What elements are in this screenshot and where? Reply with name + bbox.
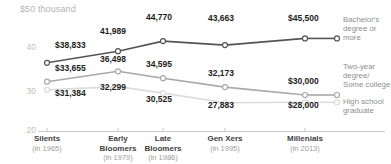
data-point-marker[interactable] — [45, 60, 50, 65]
legend-end-marker — [335, 100, 340, 105]
legend-item-highschool: High school graduate — [343, 97, 384, 115]
x-axis-label-silents-name: Silents — [34, 134, 60, 143]
data-point-marker[interactable] — [116, 69, 121, 74]
data-label-twoyear-millenials: $30,000 — [288, 76, 319, 86]
data-label-twoyear-early: 36,498 — [100, 54, 126, 64]
data-label-highschool-silents: $31,384 — [55, 88, 86, 98]
data-point-marker[interactable] — [116, 49, 121, 54]
data-point-marker[interactable] — [303, 93, 308, 98]
x-axis-label-millenials: Millenials (in 2013) — [273, 134, 337, 153]
legend-label-highschool-line2: graduate — [343, 106, 374, 115]
x-axis-label-gen-xers: Gen Xers (in 1995) — [195, 134, 255, 153]
legend-label-highschool-line1: High school — [343, 97, 384, 106]
x-axis-label-late-bloomers-name2: Bloomers — [135, 144, 191, 154]
data-label-highschool-millenials: $28,000 — [288, 100, 319, 110]
legend-label-bachelors-line3: more — [343, 33, 361, 42]
legend-label-bachelors-line1: Bachelor's — [343, 15, 379, 24]
legend-end-marker — [335, 36, 340, 41]
data-label-bachelors-silents: $38,833 — [55, 40, 86, 50]
chart-container: $50 thousand 40 30 20 $38,833 41,989 44,… — [0, 0, 391, 164]
x-axis-label-early-bloomers-name: Early — [108, 134, 128, 143]
data-label-bachelors-millenials: $45,500 — [288, 13, 319, 23]
data-point-marker[interactable] — [223, 85, 228, 90]
data-point-marker[interactable] — [161, 39, 166, 44]
data-point-marker[interactable] — [45, 87, 50, 92]
legend-end-marker — [335, 93, 340, 98]
legend-label-twoyear-line3: Some college — [343, 80, 390, 89]
data-label-highschool-late: 30,525 — [146, 94, 172, 104]
x-axis-label-gen-xers-year: (in 1995) — [195, 144, 255, 154]
x-axis-label-gen-xers-name: Gen Xers — [207, 134, 242, 143]
x-axis-label-silents: Silents (in 1965) — [17, 134, 77, 153]
data-label-twoyear-genx: 32,173 — [208, 68, 234, 78]
x-axis-label-late-bloomers-name: Late — [155, 134, 171, 143]
data-label-highschool-genx: 27,883 — [208, 100, 234, 110]
legend-label-twoyear-line2: degree/ — [343, 71, 369, 80]
x-axis-label-silents-year: (in 1965) — [17, 144, 77, 154]
data-label-highschool-early: 32,299 — [100, 82, 126, 92]
x-axis-label-late-bloomers: Late Bloomers (in 1986) — [135, 134, 191, 163]
legend-label-bachelors-line2: degree or — [343, 24, 376, 33]
data-point-marker[interactable] — [303, 36, 308, 41]
x-axis-label-millenials-year: (in 2013) — [273, 144, 337, 154]
legend-item-twoyear: Two-year degree/ Some college — [343, 62, 390, 90]
x-axis-label-millenials-name: Millenials — [287, 134, 323, 143]
data-point-marker[interactable] — [161, 76, 166, 81]
data-label-bachelors-late: 44,770 — [146, 12, 172, 22]
data-label-twoyear-silents: $33,655 — [55, 63, 86, 73]
legend-item-bachelors: Bachelor's degree or more — [343, 15, 379, 43]
legend-label-twoyear-line1: Two-year — [343, 62, 375, 71]
data-label-twoyear-late: 34,595 — [146, 59, 172, 69]
data-point-marker[interactable] — [45, 79, 50, 84]
data-point-marker[interactable] — [223, 43, 228, 48]
data-label-bachelors-early: 41,989 — [100, 26, 126, 36]
x-axis-label-late-bloomers-year: (in 1986) — [135, 153, 191, 163]
data-label-bachelors-genx: 43,663 — [208, 13, 234, 23]
